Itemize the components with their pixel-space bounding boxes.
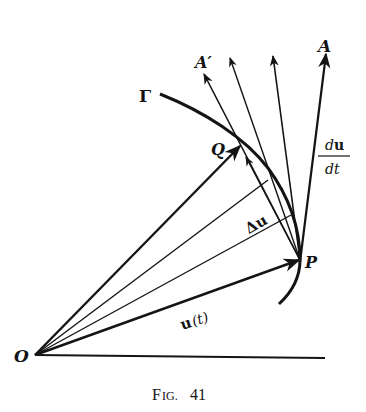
label-delta-u: Δu [242, 211, 271, 238]
deriv-num-d: d [325, 137, 334, 153]
baseline-axis [35, 355, 325, 358]
u-argument: (t) [190, 309, 211, 329]
secant-3 [273, 56, 300, 260]
caption-prefix: F [152, 386, 161, 403]
label-du-dt: d u dt [318, 137, 350, 177]
label-gamma: Γ [139, 86, 151, 106]
figure-41-diagram: A A′ Γ Q P O d u dt Δu u (t) F IG. 41 [0, 0, 366, 412]
caption-number: 41 [190, 386, 206, 403]
label-u-t: u (t) [178, 308, 211, 334]
vector-o-intermediate-1 [35, 180, 268, 355]
tangent-a [300, 54, 326, 262]
deriv-den: dt [325, 161, 340, 177]
label-o: O [14, 346, 29, 366]
deriv-num-u: u [334, 137, 344, 153]
figure-caption: F IG. 41 [152, 386, 206, 403]
label-a-prime: A′ [193, 53, 212, 72]
vector-u-t [35, 260, 299, 355]
label-a: A [316, 36, 331, 56]
label-q: Q [211, 140, 225, 159]
caption-small: IG. [162, 389, 178, 403]
label-p: P [304, 253, 318, 272]
